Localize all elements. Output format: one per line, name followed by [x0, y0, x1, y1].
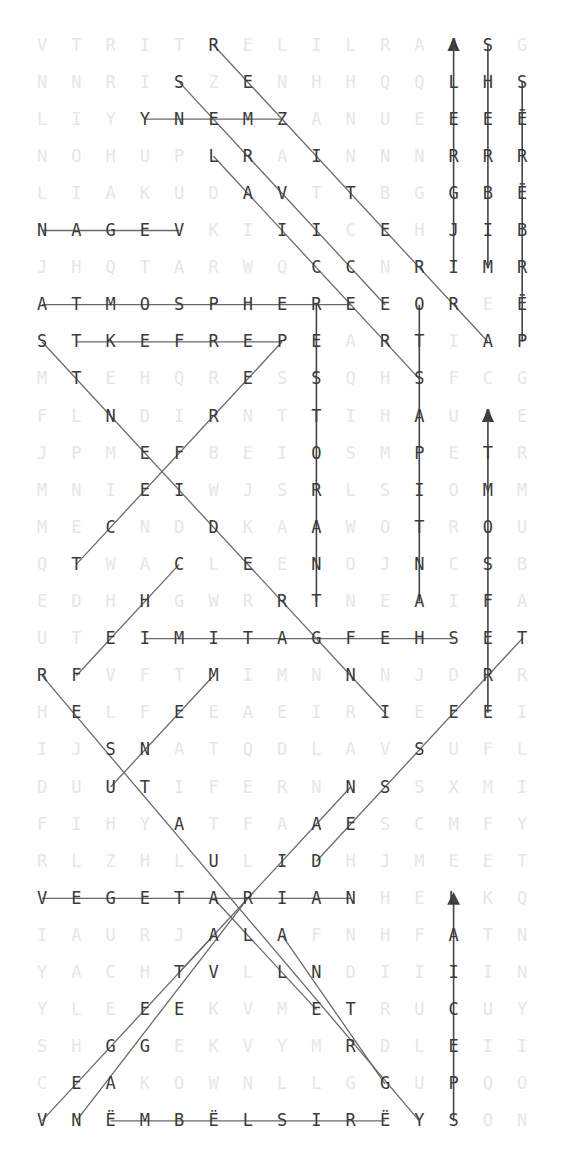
- grid-cell[interactable]: T: [61, 624, 91, 654]
- grid-cell[interactable]: F: [130, 661, 160, 691]
- grid-cell[interactable]: R: [27, 661, 57, 691]
- grid-cell[interactable]: U: [96, 920, 126, 950]
- grid-cell[interactable]: C: [404, 809, 434, 839]
- grid-cell[interactable]: W: [199, 587, 229, 617]
- grid-cell[interactable]: E: [233, 772, 263, 802]
- grid-cell[interactable]: E: [301, 327, 331, 357]
- grid-cell[interactable]: N: [301, 958, 331, 988]
- grid-cell[interactable]: E: [404, 698, 434, 728]
- grid-cell[interactable]: I: [473, 958, 503, 988]
- grid-cell[interactable]: E: [233, 327, 263, 357]
- grid-cell[interactable]: N: [507, 920, 537, 950]
- grid-cell[interactable]: J: [27, 438, 57, 468]
- grid-cell[interactable]: E: [233, 364, 263, 394]
- grid-cell[interactable]: W: [199, 475, 229, 505]
- grid-cell[interactable]: F: [130, 698, 160, 728]
- grid-cell[interactable]: O: [130, 290, 160, 320]
- grid-cell[interactable]: T: [130, 253, 160, 283]
- grid-cell[interactable]: H: [370, 920, 400, 950]
- grid-cell[interactable]: M: [96, 438, 126, 468]
- grid-cell[interactable]: H: [130, 846, 160, 876]
- grid-cell[interactable]: O: [301, 438, 331, 468]
- grid-cell[interactable]: F: [164, 327, 194, 357]
- grid-cell[interactable]: T: [473, 920, 503, 950]
- grid-cell[interactable]: A: [336, 327, 366, 357]
- grid-cell[interactable]: X: [439, 772, 469, 802]
- grid-cell[interactable]: N: [61, 475, 91, 505]
- grid-cell[interactable]: M: [27, 512, 57, 542]
- grid-cell[interactable]: L: [336, 475, 366, 505]
- grid-cell[interactable]: E: [370, 290, 400, 320]
- grid-cell[interactable]: R: [507, 661, 537, 691]
- grid-cell[interactable]: A: [61, 958, 91, 988]
- grid-cell[interactable]: E: [164, 1032, 194, 1062]
- grid-cell[interactable]: I: [473, 1032, 503, 1062]
- grid-cell[interactable]: E: [130, 475, 160, 505]
- grid-cell[interactable]: O: [370, 512, 400, 542]
- grid-cell[interactable]: L: [61, 995, 91, 1025]
- grid-cell[interactable]: U: [439, 735, 469, 765]
- grid-cell[interactable]: S: [404, 735, 434, 765]
- grid-cell[interactable]: E: [439, 698, 469, 728]
- grid-cell[interactable]: I: [439, 958, 469, 988]
- grid-cell[interactable]: I: [301, 216, 331, 246]
- grid-cell[interactable]: H: [27, 698, 57, 728]
- grid-cell[interactable]: I: [370, 698, 400, 728]
- grid-cell[interactable]: O: [439, 475, 469, 505]
- grid-cell[interactable]: E: [507, 401, 537, 431]
- grid-cell[interactable]: N: [61, 1106, 91, 1136]
- grid-cell[interactable]: D: [199, 512, 229, 542]
- grid-cell[interactable]: E: [473, 290, 503, 320]
- grid-cell[interactable]: G: [507, 30, 537, 60]
- grid-cell[interactable]: F: [473, 735, 503, 765]
- grid-cell[interactable]: E: [130, 995, 160, 1025]
- grid-cell[interactable]: A: [301, 809, 331, 839]
- grid-cell[interactable]: O: [404, 290, 434, 320]
- grid-cell[interactable]: L: [61, 846, 91, 876]
- grid-cell[interactable]: C: [301, 253, 331, 283]
- grid-cell[interactable]: R: [370, 327, 400, 357]
- grid-cell[interactable]: A: [233, 178, 263, 208]
- grid-cell[interactable]: V: [267, 178, 297, 208]
- grid-cell[interactable]: U: [96, 772, 126, 802]
- grid-cell[interactable]: R: [199, 401, 229, 431]
- grid-cell[interactable]: A: [336, 735, 366, 765]
- grid-cell[interactable]: F: [439, 364, 469, 394]
- grid-cell[interactable]: I: [439, 253, 469, 283]
- grid-cell[interactable]: H: [96, 587, 126, 617]
- grid-cell[interactable]: T: [199, 735, 229, 765]
- grid-cell[interactable]: D: [164, 512, 194, 542]
- grid-cell[interactable]: E: [61, 512, 91, 542]
- grid-cell[interactable]: U: [473, 995, 503, 1025]
- grid-cell[interactable]: U: [507, 512, 537, 542]
- grid-cell[interactable]: J: [370, 846, 400, 876]
- grid-cell[interactable]: N: [267, 67, 297, 97]
- grid-cell[interactable]: G: [404, 178, 434, 208]
- grid-cell[interactable]: C: [473, 364, 503, 394]
- grid-cell[interactable]: I: [507, 772, 537, 802]
- grid-cell[interactable]: E: [404, 104, 434, 134]
- grid-cell[interactable]: R: [267, 772, 297, 802]
- grid-cell[interactable]: U: [130, 141, 160, 171]
- grid-cell[interactable]: T: [61, 290, 91, 320]
- grid-cell[interactable]: P: [267, 327, 297, 357]
- grid-cell[interactable]: C: [439, 995, 469, 1025]
- grid-cell[interactable]: L: [233, 958, 263, 988]
- grid-cell[interactable]: Q: [27, 549, 57, 579]
- grid-cell[interactable]: S: [370, 772, 400, 802]
- grid-cell[interactable]: P: [61, 438, 91, 468]
- grid-cell[interactable]: E: [233, 438, 263, 468]
- grid-cell[interactable]: H: [370, 401, 400, 431]
- grid-cell[interactable]: L: [164, 846, 194, 876]
- grid-cell[interactable]: I: [301, 141, 331, 171]
- grid-cell[interactable]: W: [96, 549, 126, 579]
- grid-cell[interactable]: Ë: [507, 178, 537, 208]
- grid-cell[interactable]: E: [130, 883, 160, 913]
- grid-cell[interactable]: I: [267, 438, 297, 468]
- grid-cell[interactable]: O: [473, 512, 503, 542]
- grid-cell[interactable]: D: [301, 846, 331, 876]
- grid-cell[interactable]: Y: [130, 104, 160, 134]
- grid-cell[interactable]: B: [507, 216, 537, 246]
- grid-cell[interactable]: M: [199, 661, 229, 691]
- grid-cell[interactable]: A: [301, 512, 331, 542]
